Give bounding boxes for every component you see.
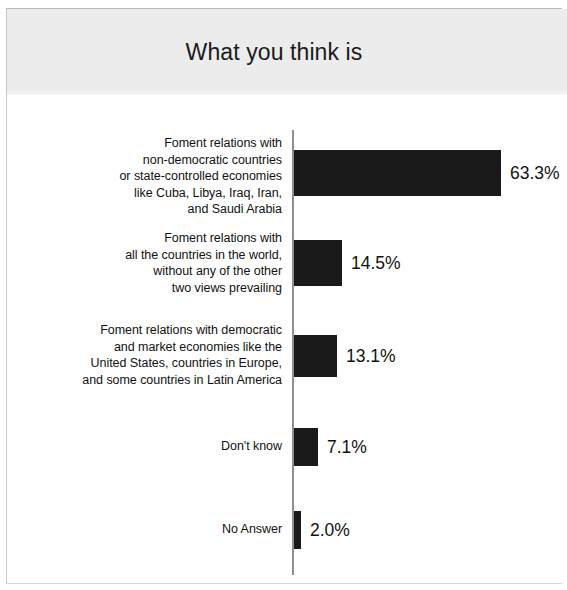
bar	[294, 150, 501, 196]
bar-group: 14.5%	[294, 240, 401, 286]
bar-category-label: Foment relations with democratic and mar…	[7, 322, 282, 388]
page-title: What you think is	[186, 39, 363, 66]
bar-group: 7.1%	[294, 428, 367, 466]
bar	[294, 428, 318, 466]
bar	[294, 240, 342, 286]
bar-category-label: Don't know	[32, 438, 282, 455]
plot-area: Foment relations with non-democratic cou…	[0, 96, 567, 590]
bar-value-label: 13.1%	[346, 346, 396, 367]
bar-row: Foment relations with non-democratic cou…	[0, 150, 567, 196]
bar	[294, 335, 337, 377]
title-banner: What you think is	[7, 9, 567, 95]
chart-page: What you think is Foment relations with …	[0, 0, 567, 590]
bar-row: Foment relations with all the countries …	[0, 240, 567, 286]
bar	[294, 511, 301, 549]
bar-category-label: Foment relations with all the countries …	[32, 230, 282, 296]
bar-value-label: 63.3%	[510, 163, 560, 184]
bar-value-label: 7.1%	[327, 437, 367, 458]
bar-group: 2.0%	[294, 511, 350, 549]
bar-group: 13.1%	[294, 335, 396, 377]
bar-category-label: No Answer	[32, 521, 282, 538]
bar-row: Foment relations with democratic and mar…	[0, 335, 567, 377]
bar-value-label: 2.0%	[310, 520, 350, 541]
bar-value-label: 14.5%	[351, 253, 401, 274]
bar-group: 63.3%	[294, 150, 560, 196]
bar-category-label: Foment relations with non-democratic cou…	[32, 135, 282, 218]
bar-row: No Answer 2.0%	[0, 511, 567, 549]
bar-row: Don't know 7.1%	[0, 428, 567, 466]
